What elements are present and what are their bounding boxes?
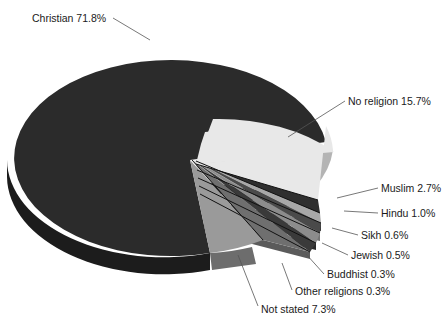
leader-muslim [337, 188, 378, 198]
pie-chart-svg: Christian 71.8% No religion 15.7% Muslim… [0, 0, 448, 325]
pie-top-faces [14, 60, 334, 256]
leader-jewish [322, 243, 348, 255]
leader-buddhist [306, 254, 324, 274]
label-not-stated: Not stated 7.3% [261, 303, 336, 315]
leader-other [282, 263, 292, 290]
label-christian: Christian 71.8% [32, 12, 106, 24]
leader-sikh [332, 228, 358, 235]
label-buddhist: Buddhist 0.3% [327, 268, 395, 280]
label-no-religion: No religion 15.7% [348, 95, 431, 107]
label-jewish: Jewish 0.5% [351, 249, 410, 261]
label-sikh: Sikh 0.6% [361, 229, 408, 241]
pie-chart: Christian 71.8% No religion 15.7% Muslim… [0, 0, 448, 325]
label-muslim: Muslim 2.7% [381, 182, 441, 194]
leader-christian [113, 18, 150, 40]
label-other-religions: Other religions 0.3% [295, 285, 390, 297]
leader-hindu [344, 211, 378, 213]
label-hindu: Hindu 1.0% [381, 207, 435, 219]
